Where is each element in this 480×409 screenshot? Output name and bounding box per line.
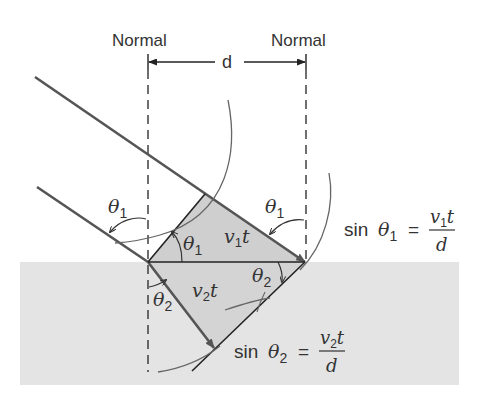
theta1-label-right: θ1 <box>265 195 284 221</box>
equation-snell-1: sin θ1 = v1t d <box>344 206 455 255</box>
normal-label-right: Normal <box>271 31 326 50</box>
incident-ray-lower <box>37 187 148 262</box>
incident-ray-upper <box>35 77 305 262</box>
distance-label: d <box>222 52 232 72</box>
eq1-numerator: v1t <box>430 206 455 230</box>
theta1-label-left: θ1 <box>108 195 127 221</box>
angle-arc-theta1-right <box>270 220 304 234</box>
normal-label-left: Normal <box>112 31 167 50</box>
wavelet-arc-right <box>300 173 331 270</box>
eq1-sin: sin <box>344 219 368 240</box>
refraction-diagram: Normal Normal d θ1 θ1 θ1 θ2 θ2 v1t v2t s… <box>0 0 480 409</box>
eq1-denominator: d <box>436 234 448 255</box>
eq1-theta: θ1 <box>378 218 397 244</box>
eq2-equals: = <box>298 341 309 362</box>
eq2-sin: sin <box>234 341 258 362</box>
eq2-denominator: d <box>326 355 338 376</box>
eq1-equals: = <box>408 219 419 240</box>
angle-arc-theta1-left <box>110 218 146 232</box>
